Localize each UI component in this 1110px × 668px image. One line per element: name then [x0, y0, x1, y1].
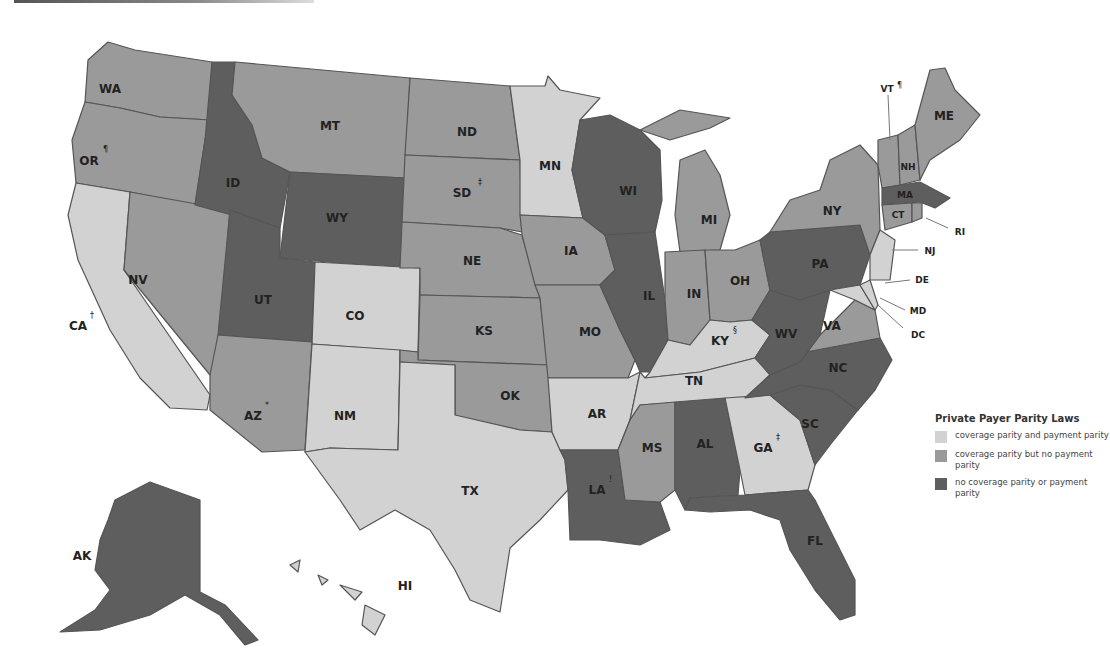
label-nm: NM [334, 409, 356, 423]
label-fl: FL [807, 534, 823, 548]
label-wi: WI [619, 184, 637, 198]
legend-label: coverage parity but no payment parity [955, 449, 1110, 471]
legend-item-coverage-and-payment: coverage parity and payment parity [935, 430, 1110, 443]
mark-ca: † [90, 311, 94, 320]
swatch-light [935, 431, 947, 443]
mark-vt: ¶ [897, 81, 902, 90]
label-in: IN [687, 287, 702, 301]
leader-md [880, 298, 905, 310]
us-map: WA OR ¶ CA † NV ID MT WY UT CO AZ * NM N… [0, 0, 1110, 668]
label-ky: KY [711, 334, 729, 348]
label-wy: WY [326, 211, 348, 225]
label-ms: MS [642, 441, 663, 455]
label-nd: ND [457, 125, 477, 139]
state-me[interactable] [915, 68, 980, 180]
mark-ky: § [733, 326, 737, 335]
state-ak[interactable] [60, 482, 258, 645]
label-vt: VT [880, 84, 894, 94]
legend-title: Private Payer Parity Laws [935, 413, 1110, 424]
legend-item-none: no coverage parity or payment parity [935, 477, 1110, 499]
label-md: MD [910, 306, 926, 316]
label-ma: MA [897, 190, 913, 200]
leader-dc [878, 305, 903, 328]
state-nm[interactable] [305, 344, 400, 452]
label-ia: IA [564, 244, 578, 258]
label-tx: TX [461, 484, 479, 498]
label-az: AZ [244, 409, 262, 423]
label-hi: HI [398, 579, 413, 593]
leader-vt [888, 95, 890, 140]
label-ar: AR [588, 407, 607, 421]
state-vt[interactable] [878, 135, 900, 188]
label-sd: SD [453, 186, 472, 200]
mark-la: ! [609, 475, 612, 484]
label-ak: AK [73, 549, 92, 563]
leader-ri [926, 218, 948, 228]
legend-label: coverage parity and payment parity [955, 430, 1109, 441]
label-ut: UT [254, 293, 273, 307]
label-nj: NJ [925, 246, 936, 256]
state-hi[interactable] [290, 560, 385, 635]
state-nd[interactable] [405, 78, 520, 160]
label-ny: NY [823, 204, 842, 218]
label-ri: RI [955, 227, 965, 237]
label-nv: NV [128, 273, 148, 287]
legend: Private Payer Parity Laws coverage parit… [935, 413, 1110, 505]
label-ok: OK [500, 389, 520, 403]
label-pa: PA [812, 257, 830, 271]
mark-ga: ‡ [776, 433, 780, 442]
state-co[interactable] [312, 262, 420, 352]
label-la: LA [589, 483, 607, 497]
state-az[interactable] [210, 335, 312, 452]
label-id: ID [226, 176, 240, 190]
mark-or: ¶ [103, 145, 108, 154]
label-me: ME [934, 109, 954, 123]
state-fl[interactable] [685, 490, 855, 620]
label-mt: MT [320, 119, 341, 133]
label-ks: KS [475, 324, 493, 338]
legend-label: no coverage parity or payment parity [955, 477, 1110, 499]
legend-item-coverage-no-payment: coverage parity but no payment parity [935, 449, 1110, 471]
label-or: OR [79, 154, 98, 168]
label-mo: MO [579, 325, 601, 339]
label-wv: WV [775, 327, 798, 341]
label-ne: NE [463, 254, 481, 268]
label-mi: MI [701, 213, 717, 227]
label-oh: OH [730, 274, 750, 288]
swatch-dark [935, 478, 947, 490]
label-wa: WA [99, 82, 122, 96]
label-nh: NH [900, 162, 915, 172]
state-ri[interactable] [912, 203, 922, 222]
label-al: AL [697, 437, 714, 451]
mark-az: * [265, 401, 269, 410]
swatch-mid [935, 450, 947, 462]
label-ct: CT [892, 210, 906, 220]
label-mn: MN [539, 159, 561, 173]
label-tn: TN [685, 374, 703, 388]
label-ga: GA [753, 441, 773, 455]
label-co: CO [345, 309, 364, 323]
label-dc: DC [911, 330, 925, 340]
label-sc: SC [801, 417, 819, 431]
label-il: IL [643, 289, 655, 303]
label-va: VA [823, 319, 841, 333]
label-ca: CA [69, 319, 88, 333]
mark-sd: ‡ [478, 178, 482, 187]
label-de: DE [915, 275, 929, 285]
label-nc: NC [829, 361, 848, 375]
